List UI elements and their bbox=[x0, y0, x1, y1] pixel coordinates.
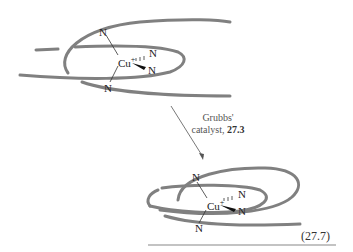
reactant-bonds bbox=[106, 35, 118, 82]
conditions-line1: Grubbs' bbox=[178, 112, 258, 124]
product-metal: Cu+ bbox=[207, 199, 224, 212]
reactant-metal-symbol: Cu bbox=[118, 57, 131, 69]
reaction-conditions: Grubbs' catalyst, 27.3 bbox=[178, 112, 258, 136]
product-lower-strand bbox=[165, 216, 300, 225]
conditions-line2: catalyst, 27.3 bbox=[178, 124, 258, 136]
reactant-n-top: N bbox=[99, 27, 107, 38]
product-n-right-upper: N bbox=[238, 189, 246, 200]
product-bonds bbox=[197, 182, 207, 223]
reaction-arrowhead bbox=[199, 153, 204, 160]
catalyst-number: 27.3 bbox=[227, 124, 245, 135]
product-charge: + bbox=[220, 198, 225, 207]
reactant-dash-left bbox=[36, 49, 58, 50]
reactant-charge: + bbox=[131, 55, 136, 64]
reactant-n-bottom: N bbox=[104, 83, 112, 94]
product-n-top: N bbox=[192, 172, 200, 183]
reactant-metal: Cu+ bbox=[118, 56, 135, 69]
product-n-right-lower: N bbox=[238, 206, 246, 217]
product-strands bbox=[148, 168, 300, 225]
product-n-bottom: N bbox=[195, 223, 203, 234]
equation-number: (27.7) bbox=[301, 229, 330, 244]
product-outer-loop bbox=[160, 168, 299, 214]
reactant-n-right-upper: N bbox=[149, 48, 157, 59]
reactant-n-right-lower: N bbox=[148, 65, 156, 76]
reactant-hash-bond bbox=[136, 56, 144, 61]
diagram-canvas bbox=[0, 0, 353, 252]
product-hash-bond bbox=[224, 196, 232, 201]
product-left-curve bbox=[148, 190, 158, 206]
product-metal-symbol: Cu bbox=[207, 200, 220, 212]
